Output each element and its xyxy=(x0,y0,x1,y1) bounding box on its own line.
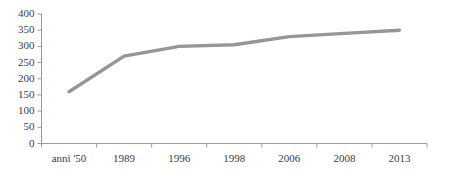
y-axis-tick-label: 300 xyxy=(18,40,35,51)
y-axis-tick-label: 150 xyxy=(18,89,35,100)
x-axis-tick-label: 1996 xyxy=(152,153,207,164)
x-axis-ticks xyxy=(42,144,428,148)
x-axis-tick-label: 2013 xyxy=(372,153,427,164)
x-axis-tick-label: 1989 xyxy=(97,153,152,164)
y-axis-tick-label: 50 xyxy=(24,121,35,132)
x-axis-tick-label: 2008 xyxy=(317,153,372,164)
series-line xyxy=(69,30,399,92)
chart-series-group xyxy=(69,30,399,92)
y-axis-tick-label: 400 xyxy=(18,8,35,19)
x-axis-tick-label: 1998 xyxy=(207,153,262,164)
x-axis-tick-label: 2006 xyxy=(262,153,317,164)
y-axis-tick-label: 200 xyxy=(18,73,35,84)
y-axis-tick-label: 350 xyxy=(18,24,35,35)
x-axis-tick-label: anni '50 xyxy=(42,153,97,164)
y-axis-tick-label: 0 xyxy=(29,138,35,149)
line-chart: 050100150200250300350400 anni '501989199… xyxy=(0,0,452,175)
chart-plot-area xyxy=(0,0,452,175)
y-axis-tick-label: 250 xyxy=(18,57,35,68)
y-axis-ticks xyxy=(38,14,42,144)
y-axis-tick-label: 100 xyxy=(18,105,35,116)
chart-axes xyxy=(38,14,428,148)
